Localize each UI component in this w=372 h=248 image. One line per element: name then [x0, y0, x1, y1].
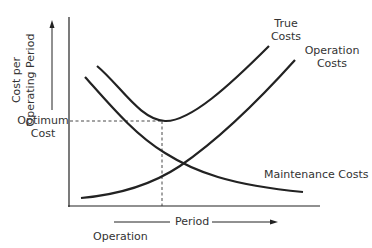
operation-costs-line2: Costs: [296, 57, 368, 70]
y-arrowhead-icon: [50, 20, 55, 28]
true-costs-line1: True: [266, 17, 306, 30]
x-axis-label: Period: [175, 215, 209, 228]
true-costs-curve: [97, 46, 269, 121]
true-costs-line2: Costs: [266, 30, 306, 43]
x-arrowhead-icon: [270, 220, 278, 225]
operation-costs-line1: Operation: [296, 44, 368, 57]
optimum-label-line1: Optimum: [16, 114, 70, 127]
x-axis-sublabel: Operation: [93, 230, 148, 243]
optimum-cost-label: Optimum Cost: [16, 114, 70, 140]
operation-costs-label: Operation Costs: [296, 44, 368, 70]
true-costs-label: True Costs: [266, 17, 306, 43]
optimum-label-line2: Cost: [16, 127, 70, 140]
maintenance-costs-label: Maintenance Costs: [264, 168, 369, 181]
y-axis-label-line1: Cost per: [10, 34, 24, 127]
y-axis-label-line2: Operating Period: [24, 34, 38, 127]
